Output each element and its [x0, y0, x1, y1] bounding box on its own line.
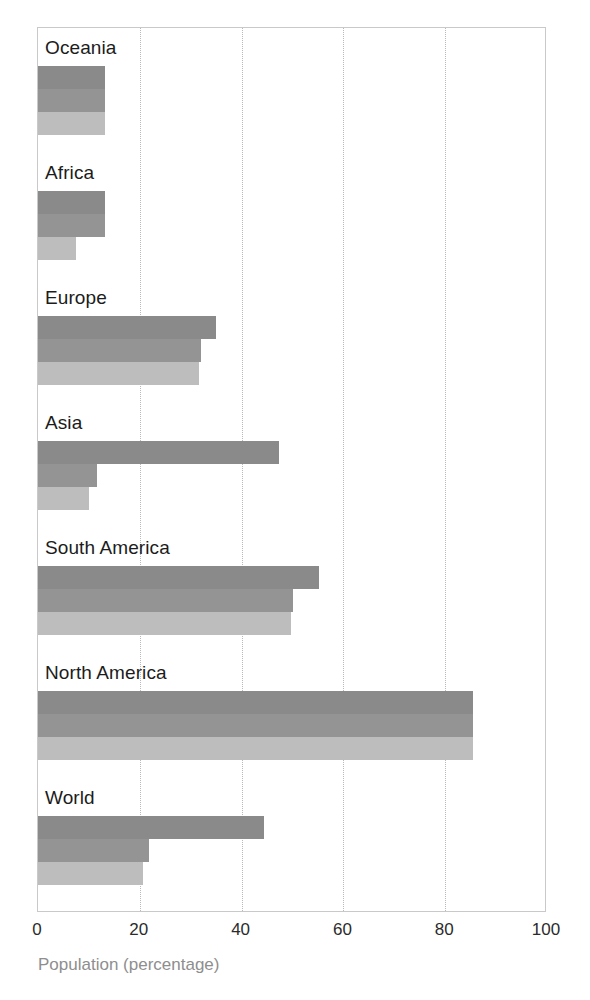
plot-area: OceaniaAfricaEuropeAsiaSouth AmericaNort… [37, 27, 546, 912]
x-tick-label: 100 [532, 921, 560, 938]
group-label: Oceania [45, 38, 116, 57]
bar-series-3 [38, 237, 76, 260]
group-label: World [45, 788, 95, 807]
x-tick-label: 80 [435, 921, 454, 938]
bar-series-3 [38, 862, 143, 885]
bar-series-2 [38, 464, 97, 487]
bar-series-2 [38, 589, 293, 612]
bar-groups: OceaniaAfricaEuropeAsiaSouth AmericaNort… [38, 28, 545, 911]
bar-series-1 [38, 816, 264, 839]
bar-chart-figure: OceaniaAfricaEuropeAsiaSouth AmericaNort… [0, 0, 590, 1000]
bar-series-3 [38, 487, 89, 510]
group-label: Europe [45, 288, 107, 307]
group-label: Asia [45, 413, 82, 432]
bar-series-2 [38, 89, 105, 112]
bar-series-1 [38, 66, 105, 89]
bar-series-1 [38, 316, 216, 339]
bar-series-1 [38, 691, 473, 714]
group-label: Africa [45, 163, 94, 182]
x-tick-label: 0 [32, 921, 41, 938]
x-tick-label: 60 [333, 921, 352, 938]
bar-series-3 [38, 737, 473, 760]
bar-series-3 [38, 112, 105, 135]
x-axis: 020406080100 [37, 913, 546, 953]
bar-series-2 [38, 839, 149, 862]
x-axis-title: Population (percentage) [38, 955, 219, 975]
bar-series-1 [38, 566, 319, 589]
bar-series-1 [38, 441, 279, 464]
group-label: South America [45, 538, 170, 557]
x-tick-label: 20 [129, 921, 148, 938]
bar-series-3 [38, 612, 291, 635]
bar-series-2 [38, 714, 473, 737]
bar-series-2 [38, 214, 105, 237]
group-label: North America [45, 663, 167, 682]
bar-series-1 [38, 191, 105, 214]
bar-series-3 [38, 362, 199, 385]
bar-series-2 [38, 339, 201, 362]
x-tick-label: 40 [231, 921, 250, 938]
